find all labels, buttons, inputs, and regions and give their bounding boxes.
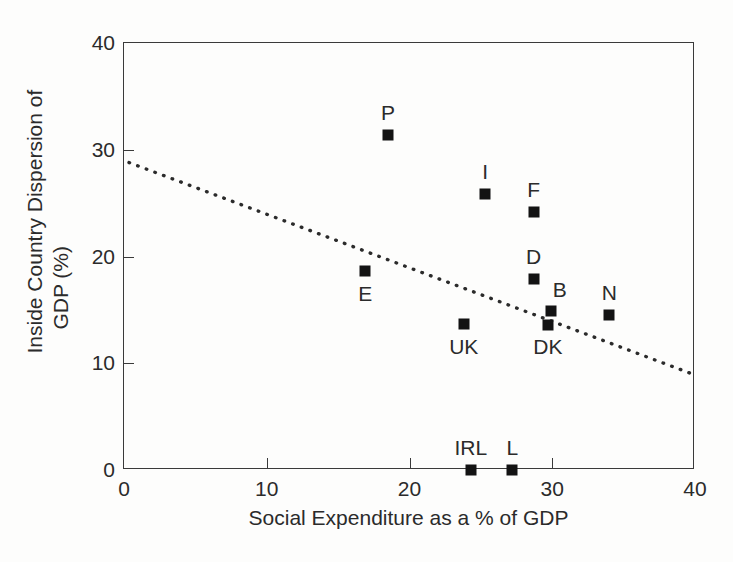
data-point-label: DK bbox=[533, 335, 562, 359]
y-tick-label: 20 bbox=[92, 245, 115, 269]
x-tick-label: 40 bbox=[683, 477, 706, 501]
trend-line bbox=[124, 43, 695, 470]
data-point-label: UK bbox=[449, 335, 478, 359]
y-tick-label: 30 bbox=[92, 138, 115, 162]
data-point-label: N bbox=[602, 281, 617, 305]
data-point-marker bbox=[604, 310, 615, 321]
data-point-marker bbox=[383, 129, 394, 140]
x-tick-mark bbox=[552, 458, 553, 468]
data-point-label: E bbox=[358, 282, 372, 306]
data-point-label: IRL bbox=[455, 436, 488, 460]
y-tick-mark bbox=[124, 363, 134, 364]
data-point-marker bbox=[458, 318, 469, 329]
chart-page: Inside Country Dispersion of GDP (%) 010… bbox=[0, 0, 733, 562]
data-point-marker bbox=[528, 273, 539, 284]
data-point-marker bbox=[545, 305, 556, 316]
x-tick-label: 30 bbox=[541, 477, 564, 501]
data-point-marker bbox=[360, 266, 371, 277]
x-tick-label: 0 bbox=[118, 477, 130, 501]
data-point-marker bbox=[542, 319, 553, 330]
x-tick-mark bbox=[410, 458, 411, 468]
x-axis-title: Social Expenditure as a % of GDP bbox=[123, 506, 694, 530]
data-point-label: B bbox=[553, 278, 567, 302]
data-point-label: P bbox=[381, 101, 395, 125]
data-point-marker bbox=[480, 188, 491, 199]
data-point-label: D bbox=[526, 245, 541, 269]
data-point-marker bbox=[507, 465, 518, 476]
y-tick-label: 10 bbox=[92, 351, 115, 375]
y-tick-label: 0 bbox=[103, 458, 115, 482]
y-axis-title: Inside Country Dispersion of GDP (%) bbox=[22, 42, 73, 402]
y-tick-label: 40 bbox=[92, 31, 115, 55]
data-point-label: F bbox=[527, 178, 540, 202]
x-tick-label: 20 bbox=[398, 477, 421, 501]
data-point-marker bbox=[465, 465, 476, 476]
y-axis-title-line2: GDP (%) bbox=[48, 42, 74, 402]
data-point-marker bbox=[528, 206, 539, 217]
y-axis-title-line1: Inside Country Dispersion of bbox=[23, 90, 46, 354]
data-point-label: I bbox=[482, 160, 488, 184]
y-tick-mark bbox=[124, 150, 134, 151]
data-point-label: L bbox=[506, 436, 518, 460]
plot-area: 010203040 010203040 PIFDBDKNEUKIRLL bbox=[123, 42, 694, 469]
x-tick-mark bbox=[267, 458, 268, 468]
x-tick-label: 10 bbox=[255, 477, 278, 501]
y-tick-mark bbox=[124, 257, 134, 258]
